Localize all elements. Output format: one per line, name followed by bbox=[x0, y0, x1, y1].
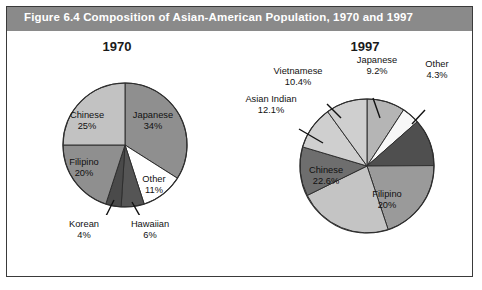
label-vietnamese-1997: Vietnamese 10.4% bbox=[262, 66, 334, 88]
label-filipino-1997-pct: 20% bbox=[356, 200, 418, 211]
label-other-1997-pct: 4.3% bbox=[413, 70, 461, 81]
label-hawaiian-1970-pct: 6% bbox=[119, 230, 181, 241]
label-chinese-1997: Chinese 22.6% bbox=[293, 165, 359, 187]
label-japanese-1970-pct: 34% bbox=[121, 121, 185, 132]
label-chinese-1970-pct: 25% bbox=[56, 121, 118, 132]
label-vietnamese-1997-name: Vietnamese bbox=[262, 66, 334, 77]
label-filipino-1970-pct: 20% bbox=[55, 168, 113, 179]
label-filipino-1970-name: Filipino bbox=[55, 157, 113, 168]
label-filipino-1970: Filipino 20% bbox=[55, 157, 113, 179]
label-other-1970-pct: 11% bbox=[129, 185, 179, 196]
label-japanese-1997: Japanese 9.2% bbox=[345, 55, 409, 77]
label-japanese-1970: Japanese 34% bbox=[121, 110, 185, 132]
label-asian-indian-1997: Asian Indian 12.1% bbox=[232, 94, 310, 116]
label-other-1970: Other 11% bbox=[129, 174, 179, 196]
figure-title-bar: Figure 6.4 Composition of Asian-American… bbox=[7, 7, 472, 31]
label-japanese-1970-name: Japanese bbox=[121, 110, 185, 121]
label-korean-1970-pct: 4% bbox=[55, 230, 113, 241]
label-korean-1970-name: Korean bbox=[55, 219, 113, 230]
label-japanese-1997-name: Japanese bbox=[345, 55, 409, 66]
label-other-1997-name: Other bbox=[413, 59, 461, 70]
label-filipino-1997-name: Filipino bbox=[356, 189, 418, 200]
chart-1997: 1997 Vietnamese bbox=[229, 31, 474, 278]
label-korean-1970: Korean 4% bbox=[55, 219, 113, 241]
chart-1970: 1970 Chinese 25% Japanese 34% bbox=[7, 31, 239, 278]
chart-1997-title: 1997 bbox=[335, 39, 395, 54]
label-vietnamese-1997-pct: 10.4% bbox=[262, 77, 334, 88]
label-asian-indian-1997-pct: 12.1% bbox=[232, 105, 310, 116]
label-hawaiian-1970: Hawaiian 6% bbox=[119, 219, 181, 241]
label-filipino-1997: Filipino 20% bbox=[356, 189, 418, 211]
label-chinese-1970-name: Chinese bbox=[56, 110, 118, 121]
label-japanese-1997-pct: 9.2% bbox=[345, 66, 409, 77]
label-asian-indian-1997-name: Asian Indian bbox=[232, 94, 310, 105]
label-other-1997: Other 4.3% bbox=[413, 59, 461, 81]
label-other-1970-name: Other bbox=[129, 174, 179, 185]
label-chinese-1997-name: Chinese bbox=[293, 165, 359, 176]
label-chinese-1970: Chinese 25% bbox=[56, 110, 118, 132]
figure-frame: Figure 6.4 Composition of Asian-American… bbox=[6, 6, 473, 277]
label-chinese-1997-pct: 22.6% bbox=[293, 176, 359, 187]
chart-1970-title: 1970 bbox=[87, 39, 147, 54]
leader-other bbox=[412, 110, 425, 124]
figure-title: Figure 6.4 Composition of Asian-American… bbox=[24, 11, 413, 23]
label-hawaiian-1970-name: Hawaiian bbox=[119, 219, 181, 230]
